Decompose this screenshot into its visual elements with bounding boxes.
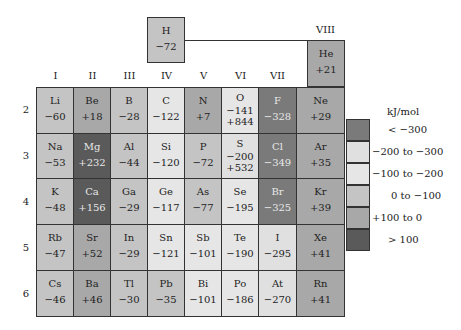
period-label-2: 2 [20, 104, 32, 115]
element-In: In−29 [110, 224, 148, 271]
group-label-III: III [111, 70, 148, 81]
group-label-I: I [37, 70, 74, 81]
element-Cs: Cs−46 [36, 270, 74, 317]
element-Xe: Xe+41 [296, 224, 345, 271]
element-symbol: Rb [37, 231, 73, 244]
element-Ga: Ga−29 [110, 178, 148, 225]
element-Mg: Mg+232 [73, 133, 111, 180]
element-Kr: Kr+39 [296, 178, 345, 225]
element-value: +46 [74, 293, 110, 306]
element-symbol: Si [148, 140, 184, 153]
element-value: −328 [259, 110, 296, 123]
element-symbol: In [111, 231, 147, 244]
legend-swatch [346, 141, 370, 163]
element-Ar: Ar+35 [296, 133, 345, 180]
element-Rb: Rb−47 [36, 224, 74, 271]
element-value: +7 [185, 110, 221, 123]
group-label-IV: IV [148, 70, 185, 81]
legend-swatch [346, 163, 370, 185]
element-symbol: Ge [148, 185, 184, 198]
element-value: +232 [74, 156, 110, 169]
element-symbol: Cs [37, 277, 73, 290]
legend-label: +100 to 0 [372, 212, 422, 223]
element-symbol: F [259, 94, 296, 107]
group-label-VIII: VIII [307, 24, 344, 35]
legend-swatch [346, 185, 370, 207]
element-symbol: Na [37, 140, 73, 153]
element-value: −186 [222, 293, 258, 306]
element-value: +21 [308, 63, 344, 76]
element-symbol: B [111, 94, 147, 107]
element-value: −72 [185, 156, 221, 169]
element-symbol: Sn [148, 231, 184, 244]
element-symbol: Po [222, 277, 258, 290]
element-value: +39 [297, 201, 344, 214]
element-H: H −72 [147, 17, 185, 63]
element-F: F−328 [258, 87, 297, 134]
element-value: −349 [259, 156, 296, 169]
element-symbol: Tl [111, 277, 147, 290]
element-Na: Na−53 [36, 133, 74, 180]
element-symbol: Be [74, 94, 110, 107]
element-symbol: Ne [297, 94, 344, 107]
element-symbol: O [222, 91, 258, 104]
element-Ne: Ne+29 [296, 87, 345, 134]
element-B: B−28 [110, 87, 148, 134]
element-Po: Po−186 [221, 270, 259, 317]
element-Ca: Ca+156 [73, 178, 111, 225]
element-value: +156 [74, 201, 110, 214]
element-value: −117 [148, 201, 184, 214]
element-value: −47 [37, 247, 73, 260]
element-symbol: I [259, 231, 296, 244]
element-symbol: C [148, 94, 184, 107]
element-symbol: Sr [74, 231, 110, 244]
legend-swatch [346, 229, 370, 251]
element-value: +18 [74, 110, 110, 123]
period-label-3: 3 [20, 150, 32, 161]
element-symbol: Mg [74, 140, 110, 153]
element-Se: Se−195 [221, 178, 259, 225]
element-value: −121 [148, 247, 184, 260]
group-label-II: II [74, 70, 111, 81]
element-symbol: Se [222, 185, 258, 198]
element-C: C−122 [147, 87, 185, 134]
element-Tl: Tl−30 [110, 270, 148, 317]
element-value: −141 [222, 105, 258, 116]
element-Be: Be+18 [73, 87, 111, 134]
element-value-second: +844 [222, 116, 258, 127]
element-value: −44 [111, 156, 147, 169]
element-symbol: Sb [185, 231, 221, 244]
element-symbol: At [259, 277, 296, 290]
element-As: As−77 [184, 178, 222, 225]
element-value: +41 [297, 247, 344, 260]
element-Rn: Rn+41 [296, 270, 345, 317]
element-symbol: Rn [297, 277, 344, 290]
element-symbol: Li [37, 94, 73, 107]
element-I: I−295 [258, 224, 297, 271]
element-symbol: Ar [297, 140, 344, 153]
element-K: K−48 [36, 178, 74, 225]
element-Cl: Cl−349 [258, 133, 297, 180]
element-symbol: N [185, 94, 221, 107]
element-symbol: As [185, 185, 221, 198]
element-Sr: Sr+52 [73, 224, 111, 271]
element-value: −77 [185, 201, 221, 214]
element-value: −122 [148, 110, 184, 123]
group-label-V: V [185, 70, 222, 81]
element-value: −120 [148, 156, 184, 169]
element-value: −295 [259, 247, 296, 260]
element-Bi: Bi−101 [184, 270, 222, 317]
element-value: −29 [111, 201, 147, 214]
element-value: +35 [297, 156, 344, 169]
element-Br: Br−325 [258, 178, 297, 225]
element-value: −101 [185, 293, 221, 306]
element-Li: Li−60 [36, 87, 74, 134]
element-Te: Te−190 [221, 224, 259, 271]
element-value: +41 [297, 293, 344, 306]
period-label-6: 6 [20, 288, 32, 299]
legend-label: > 100 [388, 234, 419, 245]
element-symbol: Ca [74, 185, 110, 198]
legend-label: −100 to −200 [372, 168, 443, 179]
element-value: −30 [111, 293, 147, 306]
element-S: S−200+532 [221, 133, 259, 180]
